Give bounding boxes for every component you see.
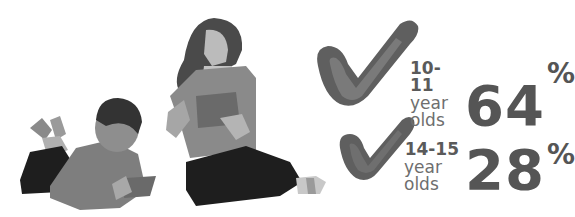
children-reading-illustration [0, 0, 340, 217]
checkmark-icon [310, 18, 420, 110]
stat-14-15: 14-15 year olds 28 % [404, 141, 575, 193]
boy-figure [20, 98, 156, 210]
stat-10-11: 10-11 year olds 64 % [410, 60, 575, 129]
percent-sign: % [547, 141, 575, 169]
age-label: year olds [410, 95, 459, 129]
stat-label: 10-11 year olds [410, 60, 459, 129]
percentage-value: 28 [465, 147, 545, 193]
age-range: 10-11 [410, 60, 459, 94]
girl-figure [166, 18, 326, 206]
age-label: year olds [404, 159, 459, 193]
age-range: 14-15 [405, 141, 459, 158]
stat-label: 14-15 year olds [404, 141, 459, 193]
percent-sign: % [547, 60, 575, 88]
percentage-value: 64 [465, 83, 545, 129]
